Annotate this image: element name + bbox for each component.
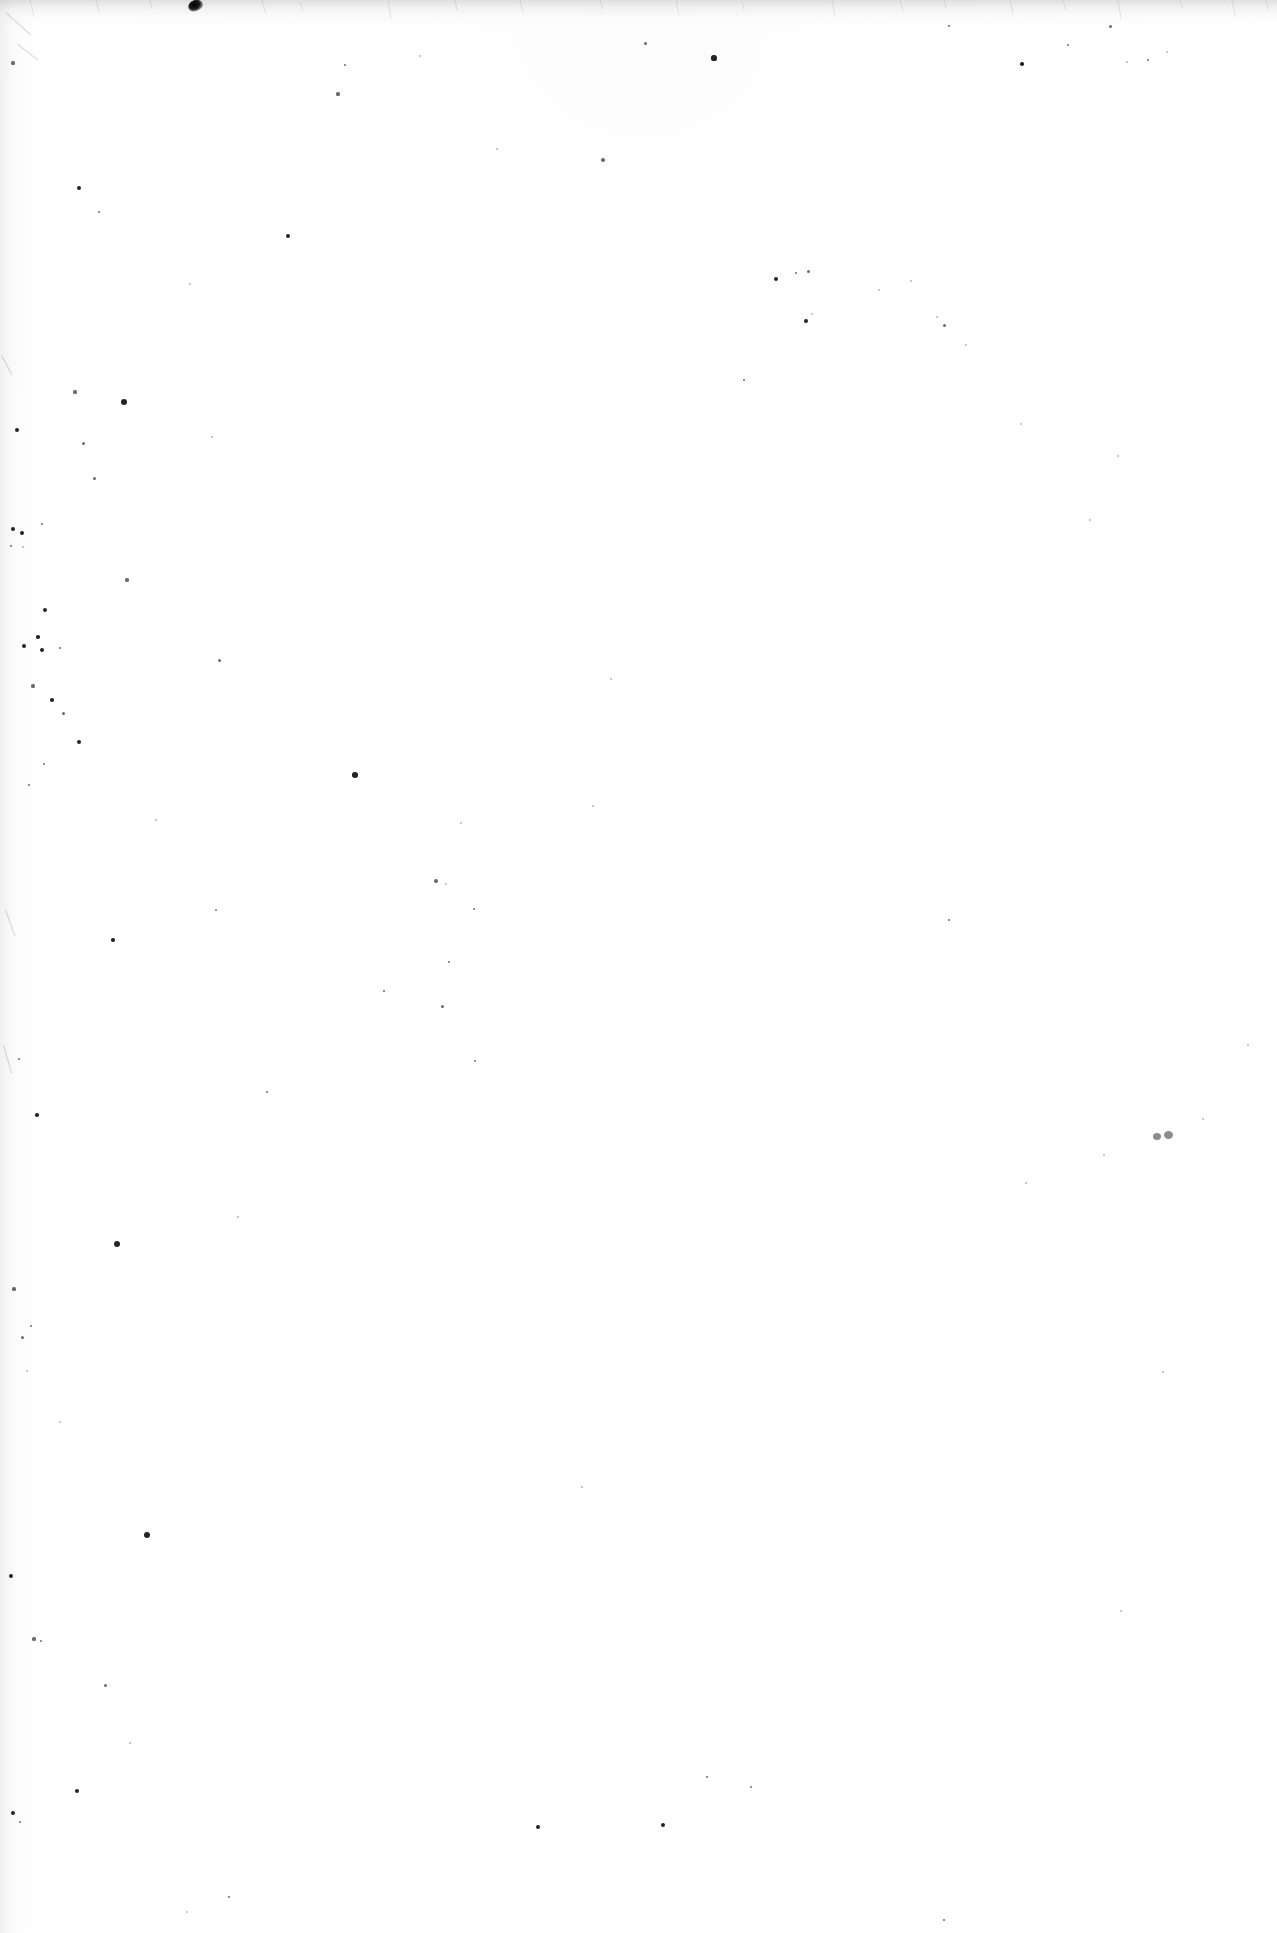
- paper-surface: [0, 0, 1277, 1933]
- scanned-page: Blank scanned page of white paper with s…: [0, 0, 1277, 1933]
